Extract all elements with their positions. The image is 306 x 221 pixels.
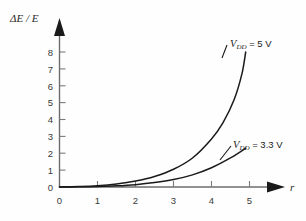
annotation-vdd-3v3: VDD = 3.3 V [233,139,283,150]
y-tick-label-3: 3 [39,131,53,142]
annotation-vdd-3v3-subscript: DD [239,144,249,152]
y-tick-label-8: 8 [39,47,53,58]
y-tick-label-1: 1 [39,165,53,176]
x-axis-title: r [290,181,294,193]
y-tick-marks [60,52,66,170]
annotation-vdd-5v-value: = 5 V [249,38,271,49]
curve-vdd-3v3 [60,148,246,187]
leader-line-vdd-5v [222,45,227,58]
y-axis-arrow-icon [54,18,65,36]
x-tick-label-4: 4 [204,195,220,206]
x-tick-label-3: 3 [166,195,182,206]
x-tick-label-1: 1 [90,195,106,206]
annotation-vdd-5v: VDD = 5 V [230,38,272,49]
y-tick-label-4: 4 [39,114,53,125]
annotation-vdd-5v-subscript: DD [236,43,246,51]
y-axis-title: ΔE / E [10,12,38,24]
x-tick-label-2: 2 [128,195,144,206]
y-tick-label-7: 7 [39,64,53,75]
curve-vdd-5v [60,52,246,187]
y-tick-label-5: 5 [39,97,53,108]
y-tick-label-0: 0 [39,182,53,193]
annotation-vdd-3v3-value: = 3.3 V [252,139,282,150]
y-tick-label-6: 6 [39,81,53,92]
chart-figure: ΔE / E r 0 1 2 3 4 5 6 7 8 0 1 2 3 4 5 V… [0,0,306,221]
x-axis-arrow-icon [267,182,285,193]
x-tick-label-5: 5 [242,195,258,206]
y-tick-label-2: 2 [39,148,53,159]
x-tick-label-0: 0 [52,195,68,206]
